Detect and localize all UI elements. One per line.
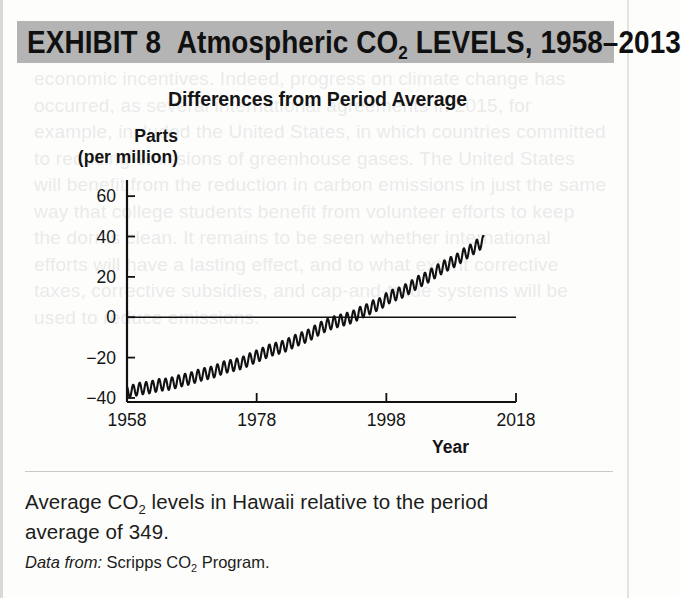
exhibit-caption: Average CO2 levels in Hawaii relative to… xyxy=(25,488,525,545)
x-tick-label: 1998 xyxy=(367,410,406,430)
y-tick-label: −40 xyxy=(86,388,116,408)
x-axis-title: Year xyxy=(432,437,469,458)
y-tick-label: 0 xyxy=(106,307,116,327)
y-tick-label: 60 xyxy=(97,186,117,206)
x-tick-label: 1958 xyxy=(108,410,147,430)
co2-line-chart: 6040200−20−401958197819982018 xyxy=(3,0,632,470)
co2-subscript-caption: 2 xyxy=(138,502,145,517)
y-tick-label: 40 xyxy=(97,227,117,247)
x-tick-label: 1978 xyxy=(237,410,276,430)
co2-subscript-source: 2 xyxy=(191,562,197,574)
axis-ticks-group: 6040200−20−401958197819982018 xyxy=(86,186,535,430)
source-label: Data from: xyxy=(25,553,102,571)
y-tick-label: 20 xyxy=(97,267,117,287)
y-tick-label: −20 xyxy=(86,348,116,368)
x-tick-label: 2018 xyxy=(497,410,536,430)
caption-divider xyxy=(25,471,613,472)
exhibit-source: Data from: Scripps CO2 Program. xyxy=(25,552,565,575)
